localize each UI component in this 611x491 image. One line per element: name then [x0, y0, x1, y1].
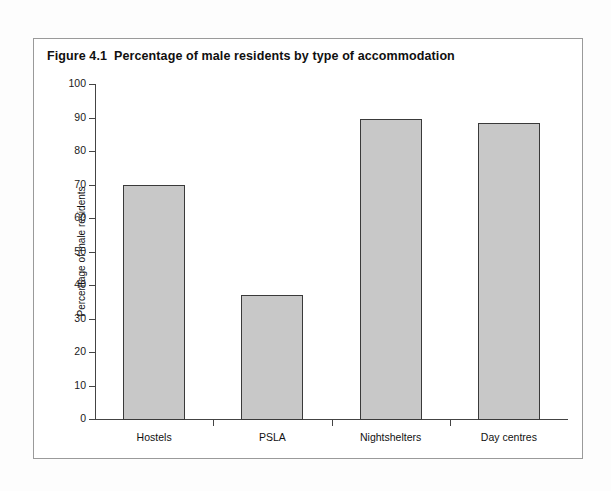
y-axis-tick-label: 20	[74, 345, 86, 357]
y-axis-tick-label: 60	[74, 211, 86, 223]
y-axis-tick-label: 80	[74, 144, 86, 156]
y-axis-tick	[89, 386, 95, 387]
x-axis-category-label: Nightshelters	[360, 431, 421, 443]
figure-title-text: Percentage of male residents by type of …	[114, 49, 455, 63]
y-axis-tick-label: 90	[74, 111, 86, 123]
bar	[478, 123, 540, 420]
y-axis-tick-label: 100	[68, 77, 86, 89]
figure-title: Figure 4.1Percentage of male residents b…	[47, 49, 455, 63]
y-axis-line	[95, 84, 96, 420]
y-axis-tick-label: 0	[80, 412, 86, 424]
x-axis-tick	[332, 420, 333, 426]
figure-frame: Figure 4.1Percentage of male residents b…	[33, 38, 583, 459]
y-axis-tick	[89, 218, 95, 219]
y-axis-tick-label: 40	[74, 278, 86, 290]
y-axis-tick	[89, 352, 95, 353]
bar	[241, 295, 303, 420]
y-axis-tick-label: 50	[74, 245, 86, 257]
y-axis-tick	[89, 252, 95, 253]
bar	[360, 119, 422, 420]
y-axis-tick	[89, 319, 95, 320]
y-axis-tick-label: 10	[74, 379, 86, 391]
y-axis-tick	[89, 285, 95, 286]
y-axis-tick	[89, 185, 95, 186]
y-axis-tick-label: 70	[74, 178, 86, 190]
y-axis-tick	[89, 419, 95, 420]
page-background: Figure 4.1Percentage of male residents b…	[0, 0, 611, 491]
bar	[123, 185, 185, 421]
x-axis-tick	[213, 420, 214, 426]
x-axis-category-label: Hostels	[137, 431, 172, 443]
y-axis-tick-label: 30	[74, 312, 86, 324]
plot-area: 0102030405060708090100 HostelsPSLANights…	[95, 84, 568, 419]
y-axis-tick	[89, 151, 95, 152]
y-axis-tick	[89, 84, 95, 85]
y-axis-tick	[89, 118, 95, 119]
x-axis-tick	[450, 420, 451, 426]
figure-number: Figure 4.1	[47, 49, 107, 63]
x-axis-category-label: PSLA	[259, 431, 286, 443]
x-axis-category-label: Day centres	[481, 431, 537, 443]
